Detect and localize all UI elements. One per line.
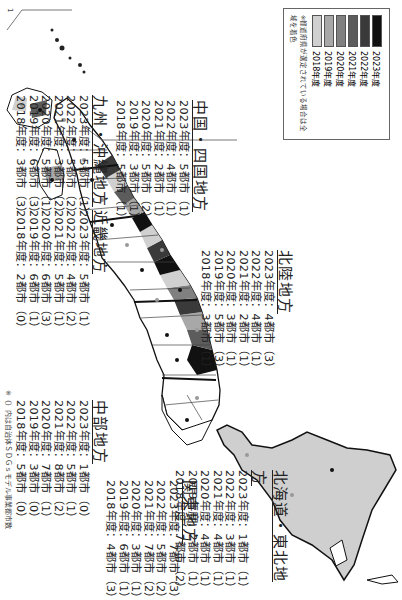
region-row: 2021年度：2都市（1） [151,100,164,224]
region-kyushu-okinawa: 九州・沖縄地方 2023年度：5都市（1） 2022年度：5都市（2） 2021… [13,95,112,219]
region-title: 北陸地方 [276,250,297,374]
region-row: 2023年度：5都市（1） [76,210,89,334]
legend-item-2019: 2019年度 [324,15,334,133]
region-row: 2023年度：7都市（3） [166,480,179,600]
region-row: 2020年度：3都市（1） [129,480,142,600]
region-row: 2019年度：6都市（1） [116,480,129,600]
legend-swatch [312,15,322,47]
region-row: 2019年度：6都市（3） [26,95,39,219]
region-kanto: 関東地方 2023年度：7都市（3） 2022年度：5都市（2） 2021年度：… [103,480,202,600]
region-row: 2020年度：7都市（1） [39,400,52,524]
region-title: 中部地方 [91,400,112,524]
region-row: 2018年度：5都市（0） [13,400,26,524]
region-row: 2019年度：6都市（1） [26,210,39,334]
legend-swatch [336,15,346,47]
region-row: 2020年度：5都市（2） [139,100,152,224]
region-chugoku-shikoku: 中国・四国地方 2023年度：5都市（1） 2022年度：4都市（1） 2021… [113,100,212,224]
region-row: 2023年度：5都市（1） [76,95,89,219]
region-row: 2023年度：5都市（1） [176,100,189,224]
region-row: 2018年度：2都市（0） [13,210,26,334]
region-chubu: 中部地方 2023年度：1都市（0） 2022年度：5都市（1） 2021年度：… [13,400,112,524]
legend-swatch [372,15,382,47]
region-hokuriku: 北陸地方 2023年度：4都市（3） 2022年度：4都市（1） 2021年度：… [198,250,297,374]
region-row: 2018年度：3都市（1） [198,250,211,374]
legend: 2023年度 2022年度 2021年度 2020年度 2019年度 2018年… [283,8,390,140]
region-row: 2022年度：4都市（1） [249,250,262,374]
region-row: 2020年度：5都市（1） [39,95,52,219]
region-row: 2019年度：3都市（1） [126,100,139,224]
legend-item-2021: 2021年度 [348,15,358,133]
region-title: 九州・沖縄地方 [91,95,112,219]
region-row: 2023年度：1都市（1） [235,470,248,594]
region-row: 2022年度：4都市（1） [164,100,177,224]
region-title: 関東地方 [181,480,202,600]
legend-item-2023: 2023年度 [372,15,382,133]
legend-swatch [360,15,370,47]
footnote: ※（）内は自治体ＳＤＧｓモデル事業都市数 [4,390,14,529]
region-row: 2018年度：3都市（3） [13,95,26,219]
region-title: 北海道・東北地方 [250,470,292,594]
region-row: 2019年度：5都市（3） [211,250,224,374]
region-row: 2021年度：3都市（2） [51,95,64,219]
region-row: 2022年度：5都市（2） [64,95,77,219]
region-row: 2018年度：5都市（1） [113,100,126,224]
region-row: 2020年度：6都市（3） [39,210,52,334]
region-row: 2023年度：4都市（3） [261,250,274,374]
legend-note: ※都道府県が選定されている場合は全域を着色 [289,15,309,133]
region-row: 2019年度：3都市（0） [26,400,39,524]
region-row: 2021年度：7都市（2） [141,480,154,600]
region-title: 中国・四国地方 [191,100,212,224]
region-title: 近畿地方 [91,210,112,334]
legend-item-2022: 2022年度 [360,15,370,133]
region-kinki: 近畿地方 2023年度：5都市（1） 2022年度：4都市（2） 2021年度：… [13,210,112,334]
page-number: 1 [6,8,14,12]
region-row: 2021年度：4都市（1） [210,470,223,594]
legend-swatch [348,15,358,47]
region-row: 2021年度：2都市（1） [236,250,249,374]
legend-item-2018: 2018年度 [312,15,322,133]
region-row: 2021年度：5都市（1） [51,210,64,334]
region-row: 2022年度：5都市（1） [64,400,77,524]
legend-item-2020: 2020年度 [336,15,346,133]
region-row: 2022年度：4都市（2） [64,210,77,334]
region-row: 2020年度：3都市（1） [224,250,237,374]
region-row: 2022年度：3都市（1） [223,470,236,594]
region-row: 2021年度：8都市（2） [51,400,64,524]
region-row: 2022年度：5都市（2） [154,480,167,600]
region-row: 2023年度：1都市（0） [76,400,89,524]
legend-swatch [324,15,334,47]
